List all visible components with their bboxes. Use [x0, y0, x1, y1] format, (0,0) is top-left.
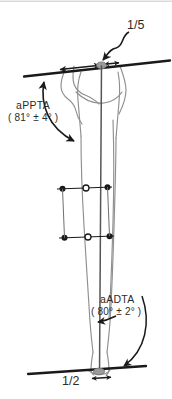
proximal-fraction-leader-arrow [103, 32, 129, 60]
anatomic-tibial-axis-line [100, 65, 102, 372]
proximal-fraction-label: 1/5 [127, 19, 144, 33]
distal-one-half-measure-arrow [92, 377, 111, 378]
lateral-tangent-connector [108, 187, 110, 236]
distal-fraction-label: 1/2 [62, 375, 79, 389]
aadta-label-group: aADTA ( 80° ± 2° ) [100, 294, 141, 318]
apppta-label-group: aPPTA ( 81° ± 4° ) [16, 100, 58, 124]
apppta-value: ( 81° ± 4° ) [8, 113, 58, 124]
distal-reference-point-marker [93, 368, 104, 375]
aadta-value: ( 80° ± 2° ) [91, 307, 141, 318]
proximal-one-fifth-measure-arrow [105, 63, 120, 65]
distal-fraction-text: 1/2 [62, 374, 79, 388]
measurement-layer [0, 0, 172, 399]
apppta-name: aPPTA [16, 99, 50, 111]
proximal-fraction-text: 1/5 [127, 18, 144, 32]
midshaft-level-2-center-point [85, 234, 91, 240]
proximal-tibial-joint-line [24, 61, 170, 77]
figure-canvas: 1/5 aPPTA ( 81° ± 4° ) aADTA ( 80° ± 2° … [0, 0, 172, 399]
midshaft-level-1-center-point [83, 185, 89, 191]
medial-tangent-connector [63, 189, 65, 238]
aadta-name: aADTA [100, 293, 135, 305]
distal-tibial-joint-line [28, 366, 146, 374]
